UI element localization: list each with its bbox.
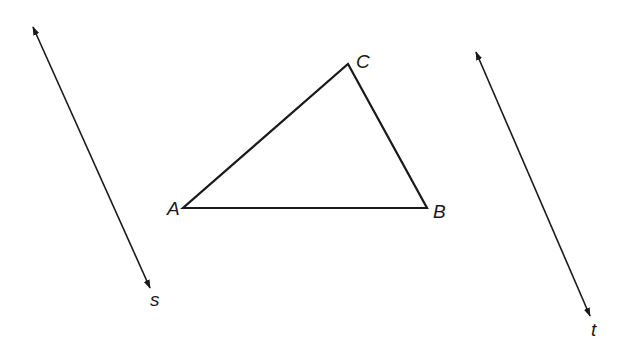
label-vertex-c: C [356,51,370,72]
geometry-figure: s A B C t [0,0,620,348]
figure-svg: s A B C t [0,0,620,348]
triangle-abc [183,64,427,208]
label-s: s [150,289,160,310]
label-t: t [591,319,597,340]
label-vertex-b: B [433,201,446,222]
line-s [33,27,150,288]
label-vertex-a: A [166,198,180,219]
line-t [476,52,590,316]
